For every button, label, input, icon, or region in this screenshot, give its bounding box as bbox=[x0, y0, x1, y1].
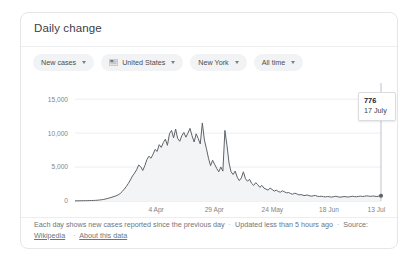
footnote-updated: Updated less than 5 hours ago bbox=[235, 220, 333, 229]
filter-chip-country-label: United States bbox=[122, 58, 165, 67]
chart-canvas[interactable]: 05,00010,00015,0004 Apr29 Apr24 May18 Ju… bbox=[33, 81, 387, 221]
chart-tooltip: 776 17 July bbox=[358, 92, 396, 121]
chevron-down-icon bbox=[235, 61, 239, 64]
filter-chip-metric[interactable]: New cases bbox=[33, 54, 94, 71]
title-divider bbox=[21, 46, 397, 47]
x-axis-tick-label: 4 Apr bbox=[148, 206, 164, 214]
chevron-down-icon bbox=[291, 61, 295, 64]
filter-chip-metric-label: New cases bbox=[41, 58, 76, 67]
wikipedia-source-link[interactable]: Wikipedia bbox=[34, 231, 65, 240]
series-area-fill bbox=[75, 123, 381, 201]
footnote-separator: · bbox=[229, 220, 231, 229]
covid-chart-screen: Daily change New cases bbox=[0, 0, 418, 263]
y-axis-tick-label: 10,000 bbox=[48, 130, 69, 137]
filter-chip-timerange[interactable]: All time bbox=[254, 54, 304, 71]
x-axis-tick-label: 24 May bbox=[262, 206, 284, 214]
y-axis-tick-label: 0 bbox=[64, 197, 68, 204]
filter-chip-region[interactable]: New York bbox=[190, 54, 246, 71]
footnote-separator: · bbox=[337, 220, 339, 229]
footer-divider bbox=[21, 217, 397, 218]
us-flag-icon bbox=[109, 59, 118, 66]
chevron-down-icon bbox=[171, 61, 175, 64]
x-axis-tick-label: 29 Apr bbox=[205, 206, 225, 214]
filter-chip-timerange-label: All time bbox=[262, 58, 286, 67]
x-axis-tick-label: 18 Jun bbox=[319, 206, 339, 213]
filter-chip-row: New cases bbox=[33, 54, 303, 71]
about-this-data-link[interactable]: About this data bbox=[79, 231, 127, 240]
page-title: Daily change bbox=[34, 22, 102, 34]
footnote-source-label: Source: bbox=[343, 220, 368, 229]
daily-change-card: Daily change New cases bbox=[20, 12, 398, 249]
daily-change-chart[interactable]: 05,00010,00015,0004 Apr29 Apr24 May18 Ju… bbox=[33, 81, 387, 221]
filter-chip-region-label: New York bbox=[198, 58, 228, 67]
chart-cursor-dot bbox=[379, 194, 383, 198]
filter-chip-country[interactable]: United States bbox=[101, 54, 183, 71]
footnote-description: Each day shows new cases reported since … bbox=[34, 220, 225, 229]
footnote-separator: · bbox=[73, 231, 75, 240]
chevron-down-icon bbox=[82, 61, 86, 64]
tooltip-value: 776 bbox=[364, 96, 390, 106]
tooltip-date: 17 July bbox=[364, 106, 390, 116]
x-axis-tick-label: 13 Jul bbox=[368, 206, 386, 213]
y-axis-tick-label: 15,000 bbox=[48, 96, 69, 103]
chart-footnote: Each day shows new cases reported since … bbox=[34, 220, 387, 241]
y-axis-tick-label: 5,000 bbox=[51, 163, 68, 170]
